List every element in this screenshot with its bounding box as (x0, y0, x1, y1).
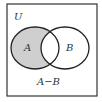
region-label: A−B (36, 76, 60, 87)
universe-label: U (14, 11, 23, 22)
set-a-label: A (23, 42, 31, 53)
venn-diagram: U A B A−B (0, 0, 102, 102)
set-b-label: B (65, 42, 73, 53)
